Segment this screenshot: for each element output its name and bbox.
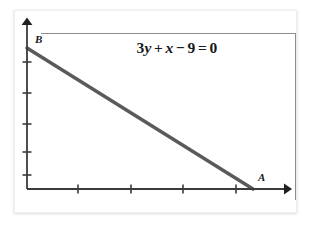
plotted-line — [27, 48, 253, 189]
y-axis-arrow-icon — [22, 18, 33, 26]
equation-plus-operator: + — [152, 39, 166, 56]
x-axis-arrow-icon — [284, 184, 292, 195]
equation-variable-x: x — [166, 39, 174, 56]
graph-canvas — [0, 0, 316, 229]
equation-equals-operator: = — [196, 39, 210, 56]
equation-right-hand-side: 0 — [210, 39, 218, 56]
point-label-b: B — [35, 34, 42, 45]
equation-annotation: 3y+x−9=0 — [0, 39, 316, 57]
figure-root: 3y+x−9=0 B A — [0, 0, 316, 229]
point-label-a: A — [258, 172, 265, 183]
equation-minus-operator: − — [174, 39, 188, 56]
equation-variable-y: y — [144, 39, 151, 56]
equation-constant: 9 — [188, 39, 196, 56]
